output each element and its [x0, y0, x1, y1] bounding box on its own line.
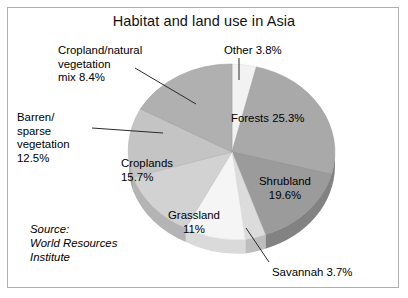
- source-attribution: Source: World Resources Institute: [30, 222, 117, 265]
- slice-label-barren-line1: Barren/: [17, 111, 70, 125]
- slice-label-forests-text: Forests 25.3%: [231, 112, 304, 124]
- slice-label-barren-line3: vegetation: [17, 138, 70, 152]
- slice-label-savannah: Savannah 3.7%: [272, 266, 352, 280]
- slice-label-cropmix-line2: vegetation: [58, 58, 142, 72]
- slice-label-croplands: Croplands 15.7%: [121, 157, 173, 184]
- slice-label-other: Other 3.8%: [224, 44, 282, 58]
- source-organization-cont: Institute: [30, 250, 117, 264]
- slice-label-croplands-name: Croplands: [121, 157, 173, 171]
- slice-label-shrubland-value: 19.6%: [259, 189, 311, 203]
- slice-label-barren-sparse: Barren/ sparse vegetation 12.5%: [17, 111, 70, 165]
- slice-label-grassland-value: 11%: [168, 223, 220, 237]
- slice-label-savannah-text: Savannah 3.7%: [272, 266, 352, 278]
- slice-label-grassland: Grassland 11%: [168, 209, 220, 236]
- slice-label-barren-value: 12.5%: [17, 152, 70, 166]
- slice-label-forests: Forests 25.3%: [231, 112, 304, 126]
- slice-label-croplands-value: 15.7%: [121, 171, 173, 185]
- slice-label-barren-line2: sparse: [17, 125, 70, 139]
- slice-label-cropmix-line1: Cropland/natural: [58, 44, 142, 58]
- slice-label-shrubland-name: Shrubland: [259, 175, 311, 189]
- slice-label-cropland-natural-mix: Cropland/natural vegetation mix 8.4%: [58, 44, 142, 85]
- figure-container: Habitat and land use in Asia: [0, 0, 408, 298]
- slice-label-cropmix-line3: mix 8.4%: [58, 71, 142, 85]
- source-organization: World Resources: [30, 236, 117, 250]
- slice-label-shrubland: Shrubland 19.6%: [259, 175, 311, 202]
- source-label: Source:: [30, 222, 117, 236]
- slice-label-grassland-name: Grassland: [168, 209, 220, 223]
- slice-label-other-text: Other 3.8%: [224, 44, 282, 56]
